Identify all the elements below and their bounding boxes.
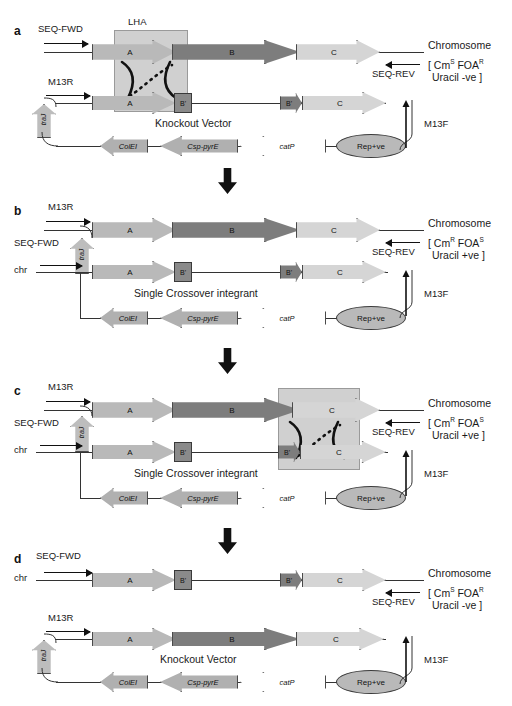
gene-a-label: A: [127, 448, 132, 457]
label-chr-d: chr: [14, 572, 27, 583]
gene-b-prime-box-c: B': [174, 442, 192, 462]
vector-backbone-vline-c: [80, 452, 81, 498]
pheno-pre: [ Cm: [428, 587, 450, 599]
gene-c-chrom-d: C: [302, 569, 386, 591]
gene-a-label: A: [127, 268, 132, 277]
chromosome-label-b: Chromosome: [428, 218, 491, 229]
panel-a: a LHA SEQ-FWD A B C A B' B' C M13R traJ …: [0, 0, 512, 180]
pheno-pre: [ Cm: [428, 237, 450, 249]
element-catp-label: catP: [279, 494, 294, 503]
gene-c-label: C: [331, 48, 337, 57]
lha-label: LHA: [128, 16, 146, 27]
gene-b-prime2-label: B': [284, 449, 290, 456]
primer-arrow-seq-fwd-d: [44, 572, 92, 573]
gene-b-top-a: B: [172, 40, 300, 64]
pheno-mid: FOA: [455, 237, 480, 249]
element-csp-pyre-label: Csp-pyrE: [187, 314, 218, 323]
gene-a-vector-d: A: [92, 628, 176, 650]
gene-a-integrant-c: A: [92, 441, 176, 463]
pheno-mid: FOA: [455, 587, 480, 599]
gene-b-label: B: [229, 48, 234, 57]
element-colei-c: ColEI: [100, 488, 148, 508]
gene-a-label: A: [127, 48, 132, 57]
gene-b-prime-label: B': [180, 449, 186, 456]
phenotype-line2-b: Uracil +ve ]: [432, 250, 485, 261]
gene-b-prime2-a: B': [280, 93, 302, 113]
element-colei-d: ColEI: [100, 672, 148, 692]
primer-arrow-seq-fwd-c: [40, 445, 82, 446]
panel-a-letter: a: [14, 24, 21, 38]
label-seq-rev-a: SEQ-REV: [372, 68, 415, 79]
label-seq-rev-c: SEQ-REV: [372, 426, 415, 437]
gene-b-prime-box-d: B': [174, 570, 192, 590]
element-csp-pyre-b: Csp-pyrE: [160, 308, 238, 328]
element-csp-pyre-a: Csp-pyrE: [160, 136, 238, 156]
label-seq-fwd-b: SEQ-FWD: [14, 237, 59, 248]
gene-a-integrant-b: A: [92, 261, 176, 283]
element-rep-c: Rep+ve: [336, 486, 406, 510]
vector-backbone-vline-b: [80, 272, 81, 318]
primer-arrow-seq-fwd-a: [44, 43, 88, 44]
chr-line-b: [36, 272, 92, 273]
panel-d-letter: d: [14, 552, 21, 566]
gene-b-prime2-b: B': [280, 262, 302, 282]
label-m13r-b: M13R: [48, 201, 73, 212]
gene-a-label: A: [127, 635, 132, 644]
primer-arrow-seq-rev-c: [386, 422, 420, 423]
gene-b-prime2-d: B': [280, 570, 302, 590]
element-rep-label: Rep+ve: [357, 678, 385, 687]
chromosome-label-d: Chromosome: [428, 568, 491, 579]
element-rep-label: Rep+ve: [357, 314, 385, 323]
element-csp-pyre-label: Csp-pyrE: [187, 142, 218, 151]
pheno-sup2: R: [479, 58, 484, 65]
label-seq-fwd-c: SEQ-FWD: [14, 417, 59, 428]
label-chr-b: chr: [14, 264, 27, 275]
vector-backbone-corner-b: [78, 224, 98, 240]
vector-backbone-corner2-a: [34, 132, 60, 150]
element-catp-c: catP: [240, 488, 326, 508]
gene-b-vector-d: B: [172, 628, 300, 650]
vector-backbone-corner-c: [78, 404, 98, 420]
pheno-pre: [ Cm: [428, 59, 450, 71]
gene-b-prime-box-b: B': [174, 262, 192, 282]
gene-b-prime2-label: B': [286, 577, 292, 584]
label-seq-fwd-d: SEQ-FWD: [36, 550, 81, 561]
pheno-sup2: S: [479, 416, 483, 423]
vector-backbone-corner-a: [40, 96, 62, 108]
phenotype-line1-a: [ CmS FOAR: [428, 56, 484, 71]
element-catp-label: catP: [279, 314, 294, 323]
gene-c-label: C: [331, 226, 337, 235]
element-colei-label: ColEI: [119, 142, 137, 151]
gene-c-label: C: [337, 268, 343, 277]
label-m13r-c: M13R: [48, 381, 73, 392]
primer-arrow-seq-rev-b: [386, 242, 420, 243]
pheno-mid: FOA: [455, 417, 480, 429]
label-m13f-c: M13F: [424, 468, 448, 479]
primer-arrow-m13r-c: [46, 401, 90, 402]
gene-c-label: C: [336, 448, 342, 457]
pheno-sup2: R: [479, 586, 484, 593]
phenotype-line2-c: Uracil +ve ]: [432, 430, 485, 441]
pheno-mid: FOA: [455, 59, 480, 71]
gene-b-label: B: [229, 406, 234, 415]
primer-arrow-seq-rev-d: [386, 592, 420, 593]
label-m13f-d: M13F: [424, 654, 448, 665]
vector-backbone-corner-d: [40, 632, 62, 644]
primer-arrow-seq-rev-a: [386, 64, 420, 65]
panel-c: c M13R A B C traJ SEQ-FWD chr A B' B' C …: [0, 360, 512, 540]
label-m13f-b: M13F: [424, 288, 448, 299]
gene-a-top-c: A: [92, 398, 176, 422]
m13f-bracket-a: [398, 98, 422, 150]
vector-backbone-corner2-d: [34, 668, 60, 686]
element-csp-pyre-label: Csp-pyrE: [187, 494, 218, 503]
phenotype-line1-d: [ CmS FOAR: [428, 584, 484, 599]
gene-a-chrom-d: A: [92, 569, 176, 591]
element-colei-label: ColEI: [119, 314, 137, 323]
phenotype-line2-a: Uracil -ve ]: [432, 72, 482, 83]
gene-a-label: A: [127, 576, 132, 585]
gene-a-label: A: [127, 99, 132, 108]
gene-c-label: C: [333, 635, 339, 644]
element-rep-a: Rep+ve: [336, 134, 406, 158]
gene-c-label: C: [337, 99, 343, 108]
phenotype-line1-b: [ CmR FOAS: [428, 234, 484, 249]
